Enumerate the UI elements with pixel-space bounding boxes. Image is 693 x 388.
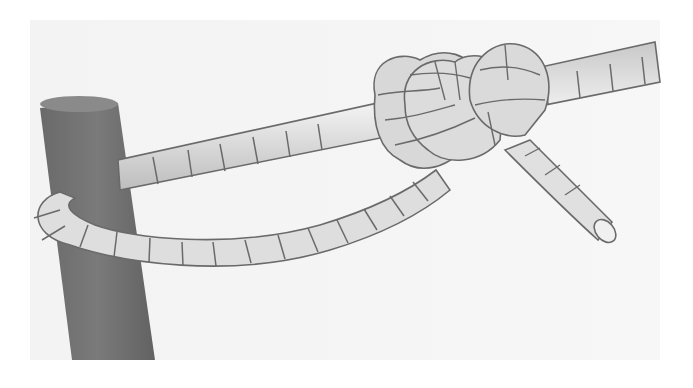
illustration-canvas <box>0 0 693 388</box>
knot-illustration <box>0 0 693 388</box>
